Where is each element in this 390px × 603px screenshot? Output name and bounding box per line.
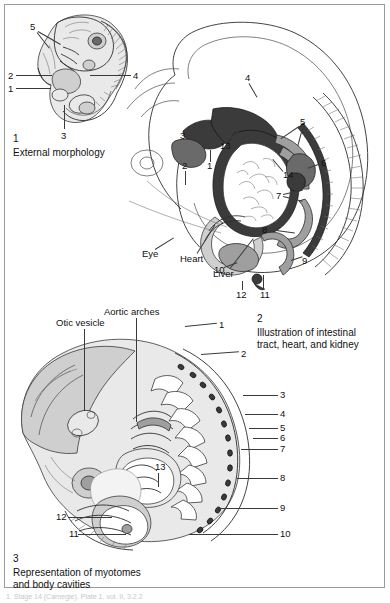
panel2-label-3: 3 xyxy=(180,131,185,141)
panel2-leader-12 xyxy=(242,281,243,290)
panel1-leader-1 xyxy=(16,88,51,89)
panel2-label-liver: Liver xyxy=(213,269,234,279)
panel-3-myotomes: Otic vesicle Aortic arches 1 2 3 4 5 6 7… xyxy=(5,305,386,589)
panel3-label-8: 8 xyxy=(280,473,285,483)
panel2-label-6: 6 xyxy=(321,158,326,168)
panel3-leader-3 xyxy=(243,395,278,396)
panel1-leader-2 xyxy=(16,75,52,76)
panel3-label-2: 2 xyxy=(241,349,246,359)
panel2-label-2: 2 xyxy=(182,161,187,171)
panel3-leader-11 xyxy=(78,534,126,535)
panel2-label-1: 1 xyxy=(207,161,212,171)
panel3-label-6: 6 xyxy=(280,433,285,443)
panel2-label-5: 5 xyxy=(300,117,305,127)
panel2-label-9: 9 xyxy=(302,256,307,266)
panel1-label-1: 1 xyxy=(8,84,13,94)
panel2-label-12: 12 xyxy=(236,290,247,300)
page-footer-text: 1. Stage 14 (Carnegie). Plate 1. vol. II… xyxy=(6,593,306,602)
panel3-label-3: 3 xyxy=(280,390,285,400)
panel3-label-13: 13 xyxy=(155,462,166,472)
panel3-leader-7 xyxy=(241,449,278,450)
panel2-label-7: 7 xyxy=(276,191,281,201)
panel3-leader-4 xyxy=(245,414,278,415)
panel3-label-aortic-arches: Aortic arches xyxy=(104,307,159,317)
panel1-label-5: 5 xyxy=(30,22,35,32)
document-page: 5 2 1 4 3 1 External morphology xyxy=(0,0,390,603)
panel1-caption-number: 1 xyxy=(13,133,19,144)
panel3-leader-8 xyxy=(237,478,278,479)
panel3-leader-otic xyxy=(84,329,85,411)
panel2-label-11: 11 xyxy=(260,290,270,300)
panel2-leader-2 xyxy=(185,171,186,185)
panel3-leader-aortic xyxy=(136,318,137,422)
panel2-label-14: 14 xyxy=(283,170,294,180)
panel3-caption-number: 3 xyxy=(13,553,19,564)
panel3-label-4: 4 xyxy=(280,409,285,419)
panel3-leader-10 xyxy=(189,534,278,535)
panel3-label-9: 9 xyxy=(280,503,285,513)
panel3-leader-5 xyxy=(249,428,278,429)
panel1-leader-3 xyxy=(64,105,65,129)
panel3-leader-9 xyxy=(217,508,278,509)
figure-frame: 5 2 1 4 3 1 External morphology xyxy=(4,4,385,588)
panel2-label-4: 4 xyxy=(245,73,250,83)
panel3-leader-12 xyxy=(68,517,112,518)
panel2-label-eye: Eye xyxy=(142,249,158,259)
panel2-label-8: 8 xyxy=(262,225,267,235)
panel2-label-heart: Heart xyxy=(180,254,203,264)
panel3-label-7: 7 xyxy=(280,444,285,454)
panel3-label-1: 1 xyxy=(219,320,224,330)
embryo-viscera-drawing xyxy=(117,13,389,313)
panel1-label-2: 2 xyxy=(8,71,13,81)
panel3-label-otic-vesicle: Otic vesicle xyxy=(56,318,105,328)
panel3-caption-text: Representation of myotomes and body cavi… xyxy=(13,567,233,590)
panel1-label-3: 3 xyxy=(61,131,66,141)
panel3-label-12: 12 xyxy=(56,512,67,522)
panel2-leader-3 xyxy=(187,135,209,136)
panel3-label-10: 10 xyxy=(280,529,291,539)
panel2-leader-1 xyxy=(210,150,211,162)
panel3-leader-13 xyxy=(158,473,159,487)
panel3-leader-6 xyxy=(253,438,278,439)
panel2-leader-11 xyxy=(263,275,264,290)
